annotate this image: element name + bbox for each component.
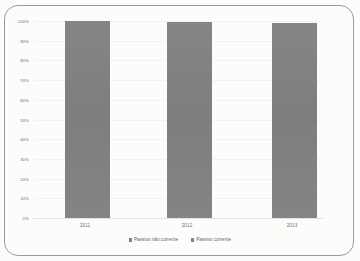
legend-swatch-icon bbox=[191, 238, 194, 241]
y-tick-label: 20% bbox=[3, 177, 29, 182]
chart-legend: Passivo não corrente Passivo corrente bbox=[0, 237, 360, 243]
y-tick-label: 40% bbox=[3, 137, 29, 142]
y-tick-label: 10% bbox=[3, 196, 29, 201]
y-tick-label: 90% bbox=[3, 39, 29, 44]
y-tick-label: 0% bbox=[3, 216, 29, 221]
y-tick-label: 60% bbox=[3, 98, 29, 103]
legend-item-passivo-corrente[interactable]: Passivo corrente bbox=[191, 237, 231, 243]
legend-label: Passivo corrente bbox=[196, 237, 231, 243]
legend-label: Passivo não corrente bbox=[134, 237, 178, 243]
bar-2012[interactable] bbox=[167, 22, 212, 219]
y-tick-label: 80% bbox=[3, 58, 29, 63]
x-tick-label-2011: 2011 bbox=[45, 223, 125, 229]
x-tick-label-2012: 2012 bbox=[147, 223, 227, 229]
legend-swatch-icon bbox=[129, 238, 132, 241]
y-tick-label: 70% bbox=[3, 78, 29, 83]
bar-2011[interactable] bbox=[65, 21, 110, 218]
y-tick-label: 100% bbox=[3, 19, 29, 24]
chart-container: 100% 90% 80% 70% 60% 50% 40% 30% 20% 10%… bbox=[0, 0, 360, 261]
bar-2013[interactable] bbox=[272, 23, 317, 218]
legend-item-passivo-nao-corrente[interactable]: Passivo não corrente bbox=[129, 237, 178, 243]
y-tick-label: 50% bbox=[3, 118, 29, 123]
axis-baseline bbox=[33, 218, 323, 219]
x-tick-label-2013: 2013 bbox=[252, 223, 332, 229]
plot-area bbox=[33, 21, 323, 218]
y-tick-label: 30% bbox=[3, 157, 29, 162]
